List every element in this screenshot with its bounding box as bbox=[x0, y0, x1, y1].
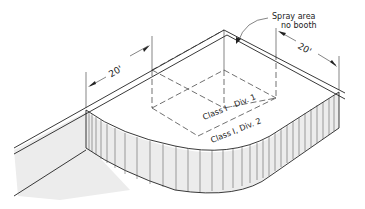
spray-area-label: Spray area bbox=[272, 12, 316, 21]
dimension-left-label: 20' bbox=[107, 64, 124, 80]
class1-div2-label: Class I, Div. 2 bbox=[209, 116, 262, 144]
dimension-right-label: 20' bbox=[296, 41, 313, 57]
spray-area-diagram: 20' 20' Spray area no booth Class I - Di… bbox=[0, 0, 365, 209]
no-booth-label: no booth bbox=[281, 21, 317, 30]
class1-div1-label: Class I - Div. 1 bbox=[201, 92, 257, 122]
dimension-left: 20' bbox=[86, 36, 152, 108]
dimension-right: 20' bbox=[276, 28, 339, 90]
